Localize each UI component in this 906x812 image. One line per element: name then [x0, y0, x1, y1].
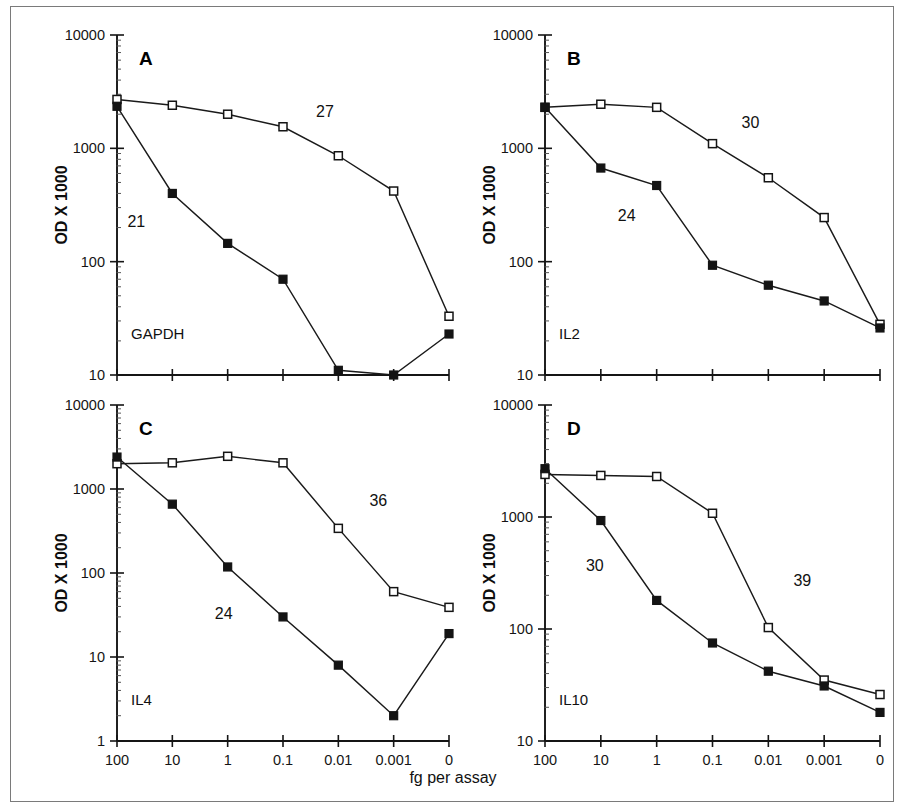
x-tick-label: 1	[224, 752, 232, 768]
data-point-24	[224, 563, 232, 571]
data-point-27	[390, 187, 398, 195]
data-point-30	[653, 103, 661, 111]
gene-label: GAPDH	[131, 325, 184, 342]
data-point-24	[390, 712, 398, 720]
chart-panel-a: 10100100010000OD X 1000AGAPDH2721	[17, 15, 457, 405]
series-annotation-21: 21	[127, 213, 145, 230]
y-tick-label: 1000	[501, 140, 533, 156]
x-tick-label: 0.1	[273, 752, 293, 768]
data-point-24	[876, 324, 884, 332]
data-point-30	[597, 100, 605, 108]
data-point-36	[168, 459, 176, 467]
series-annotation-39: 39	[793, 572, 811, 589]
data-point-24	[334, 661, 342, 669]
figure-frame: 10100100010000OD X 1000AGAPDH2721 101001…	[10, 6, 894, 802]
chart-svg-d: 101001000100001001010.10.010.0010OD X 10…	[445, 385, 890, 785]
x-tick-label: 0.01	[754, 752, 782, 768]
data-point-39	[709, 509, 717, 517]
data-point-24	[597, 164, 605, 172]
data-point-30	[820, 214, 828, 222]
y-tick-label: 10	[89, 367, 105, 383]
chart-svg-b: 10100100010000OD X 1000BIL23024	[445, 15, 890, 405]
data-point-24	[820, 297, 828, 305]
data-point-39	[764, 624, 772, 632]
gene-label: IL10	[559, 691, 588, 708]
data-point-21	[390, 371, 398, 379]
y-tick-label: 1000	[73, 481, 105, 497]
series-line-30	[545, 469, 880, 713]
y-tick-label: 1	[97, 733, 105, 749]
data-point-27	[334, 152, 342, 160]
data-point-21	[224, 239, 232, 247]
x-tick-label: 100	[105, 752, 129, 768]
series-annotation-36: 36	[369, 492, 387, 509]
data-point-27	[224, 110, 232, 118]
y-tick-label: 10000	[65, 397, 105, 413]
data-point-30	[597, 517, 605, 525]
x-tick-label: 1	[653, 752, 661, 768]
data-point-30	[653, 596, 661, 604]
x-tick-label: 0	[876, 752, 884, 768]
data-point-39	[597, 471, 605, 479]
data-point-24	[168, 500, 176, 508]
data-point-36	[334, 524, 342, 532]
data-point-24	[709, 261, 717, 269]
data-point-24	[113, 453, 121, 461]
data-point-24	[653, 181, 661, 189]
y-tick-label: 10000	[493, 397, 533, 413]
chart-svg-a: 10100100010000OD X 1000AGAPDH2721	[17, 15, 457, 405]
data-point-36	[390, 588, 398, 596]
y-tick-label: 10000	[65, 27, 105, 43]
y-axis-title: OD X 1000	[53, 165, 70, 244]
data-point-21	[113, 102, 121, 110]
series-annotation-30: 30	[586, 557, 604, 574]
data-point-24	[279, 613, 287, 621]
data-point-39	[653, 472, 661, 480]
data-point-30	[541, 465, 549, 473]
panel-grid: 10100100010000OD X 1000AGAPDH2721 101001…	[11, 7, 895, 803]
data-point-30	[709, 639, 717, 647]
gene-label: IL2	[559, 325, 580, 342]
series-annotation-30: 30	[742, 114, 760, 131]
data-point-27	[168, 101, 176, 109]
data-point-30	[709, 140, 717, 148]
x-tick-label: 0.001	[376, 752, 412, 768]
series-line-30	[545, 104, 880, 324]
chart-panel-b: 10100100010000OD X 1000BIL23024	[445, 15, 890, 405]
series-annotation-24: 24	[618, 207, 636, 224]
y-tick-label: 10000	[493, 27, 533, 43]
x-axis-title: fg per assay	[11, 769, 895, 787]
data-point-30	[764, 174, 772, 182]
data-point-30	[820, 682, 828, 690]
chart-panel-d: 101001000100001001010.10.010.0010OD X 10…	[445, 385, 890, 785]
y-tick-label: 10	[517, 367, 533, 383]
gene-label: IL4	[131, 691, 152, 708]
panel-letter: A	[139, 48, 153, 69]
y-tick-label: 100	[81, 565, 105, 581]
series-line-36	[117, 456, 449, 607]
series-annotation-24: 24	[215, 605, 233, 622]
data-point-30	[764, 667, 772, 675]
y-tick-label: 1000	[73, 140, 105, 156]
y-tick-label: 100	[509, 254, 533, 270]
x-tick-label: 100	[533, 752, 557, 768]
x-tick-label: 0.1	[702, 752, 722, 768]
data-point-21	[279, 275, 287, 283]
data-point-36	[224, 452, 232, 460]
data-point-21	[168, 189, 176, 197]
series-line-24	[117, 457, 449, 716]
data-point-39	[876, 691, 884, 699]
data-point-27	[279, 123, 287, 131]
y-axis-title: OD X 1000	[53, 533, 70, 612]
data-point-36	[279, 459, 287, 467]
panel-letter: C	[139, 418, 153, 439]
panel-letter: D	[567, 418, 581, 439]
data-point-24	[541, 103, 549, 111]
y-tick-label: 10	[517, 733, 533, 749]
y-axis-title: OD X 1000	[481, 533, 498, 612]
data-point-24	[764, 281, 772, 289]
series-annotation-27: 27	[316, 103, 334, 120]
data-point-21	[334, 366, 342, 374]
series-line-39	[545, 474, 880, 694]
x-tick-label: 0.001	[806, 752, 842, 768]
